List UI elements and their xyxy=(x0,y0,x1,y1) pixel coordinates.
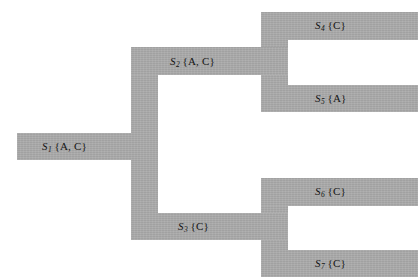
node-label-s4: S4{C} xyxy=(315,20,346,31)
node-symbol-s5: S xyxy=(315,92,321,104)
node-index-s2: 2 xyxy=(176,60,180,69)
node-index-s5: 5 xyxy=(321,97,325,106)
node-set-s1: {A, C} xyxy=(52,140,87,152)
node-index-s6: 6 xyxy=(321,190,325,199)
connector-trunk-s1-to-s2-s3 xyxy=(131,47,158,240)
node-label-s3: S3{C} xyxy=(178,221,209,232)
node-label-s2: S2{A, C} xyxy=(170,56,215,67)
node-set-s6: {C} xyxy=(325,185,346,197)
node-index-s7: 7 xyxy=(321,262,325,271)
node-index-s4: 4 xyxy=(321,24,325,33)
node-symbol-s2: S xyxy=(170,55,176,67)
node-symbol-s4: S xyxy=(315,19,321,31)
node-set-s5: {A} xyxy=(325,92,347,104)
node-index-s1: 1 xyxy=(48,145,52,154)
node-symbol-s7: S xyxy=(315,257,321,269)
node-label-s7: S7{C} xyxy=(315,258,346,269)
node-label-s1: S1{A, C} xyxy=(42,141,87,152)
node-label-s6: S6{C} xyxy=(315,186,346,197)
node-set-s2: {A, C} xyxy=(180,55,215,67)
node-set-s7: {C} xyxy=(325,257,346,269)
node-symbol-s1: S xyxy=(42,140,48,152)
node-bar-s3 xyxy=(131,213,288,240)
node-set-s3: {C} xyxy=(188,220,209,232)
node-set-s4: {C} xyxy=(325,19,346,31)
node-label-s5: S5{A} xyxy=(315,93,347,104)
node-symbol-s3: S xyxy=(178,220,184,232)
scenario-tree-diagram: S1{A, C} S2{A, C} S3{C} S4{C} S5{A} S6{C… xyxy=(0,0,418,277)
node-index-s3: 3 xyxy=(184,225,188,234)
node-symbol-s6: S xyxy=(315,185,321,197)
